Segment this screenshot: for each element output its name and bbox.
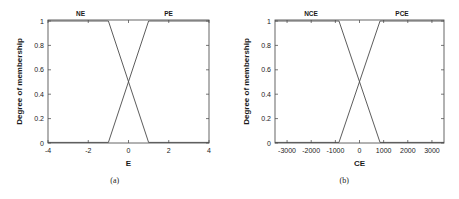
x-tick-label: 2000 [400,147,416,154]
figure-container: 0 0.2 0.4 0.6 0.8 1 -4 -2 0 2 4 E Degree… [0,0,459,199]
series-annotation-nce: NCE [304,10,318,17]
panel-b: 0 0.2 0.4 0.6 0.8 1 -3000 -2000 -1000 0 … [230,0,459,199]
y-axis-title: Degree of membership [242,38,251,125]
x-tick-label: -2 [85,147,91,154]
y-tick-label: 0.2 [34,115,44,122]
panel-a: 0 0.2 0.4 0.6 0.8 1 -4 -2 0 2 4 E Degree… [0,0,230,199]
y-axis-title: Degree of membership [15,38,24,125]
x-tick-label: 2 [167,147,171,154]
x-axis-title: CE [353,159,365,168]
y-tick-label: 0.8 [261,42,271,49]
x-tick-label: -3000 [278,147,296,154]
x-tick-label: 3000 [424,147,440,154]
x-tick-label: 0 [127,147,131,154]
series-annotation-ne: NE [76,10,86,17]
y-tick-label: 0.6 [34,66,44,73]
y-tick-label: 0.4 [261,91,271,98]
x-tick-label: -2000 [302,147,320,154]
y-tick-label: 1 [40,18,44,25]
series-curve-pe [48,21,209,142]
panel-caption-a: (a) [0,176,230,185]
x-axis-title: E [126,159,132,168]
x-tick-label: 4 [207,147,211,154]
x-tick-label: -1000 [326,147,344,154]
y-tick-label: 1 [267,18,271,25]
chart-b-svg: 0 0.2 0.4 0.6 0.8 1 -3000 -2000 -1000 0 … [230,0,459,175]
series-curve-pce [275,21,444,142]
y-tick-label: 0.8 [34,42,44,49]
chart-a-svg: 0 0.2 0.4 0.6 0.8 1 -4 -2 0 2 4 E Degree… [0,0,229,175]
y-tick-label: 0.6 [261,66,271,73]
series-annotation-pe: PE [164,10,173,17]
panel-caption-b: (b) [230,176,459,185]
y-tick-label: 0 [40,140,44,147]
x-tick-label: 1000 [375,147,391,154]
y-tick-label: 0.2 [261,115,271,122]
x-tick-label: 0 [357,147,361,154]
x-tick-label: -4 [45,147,51,154]
series-annotation-pce: PCE [395,10,409,17]
y-tick-label: 0.4 [34,91,44,98]
y-tick-label: 0 [267,140,271,147]
